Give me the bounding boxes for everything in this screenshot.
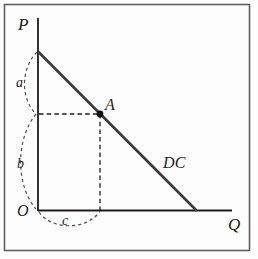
demand-curve-label: DC <box>163 155 186 171</box>
figure-frame <box>5 5 250 251</box>
point-a-label: A <box>105 97 115 113</box>
brace-label-c: c <box>62 214 68 228</box>
origin-label: O <box>17 203 29 219</box>
brace-label-b: b <box>17 157 24 171</box>
brace-label-a: a <box>16 76 23 90</box>
figure-container: P Q O A DC a b c <box>0 0 258 259</box>
point-a-marker <box>97 111 104 118</box>
demand-curve-figure <box>0 0 258 259</box>
price-axis-label: P <box>18 16 28 33</box>
quantity-axis-label: Q <box>228 216 240 233</box>
